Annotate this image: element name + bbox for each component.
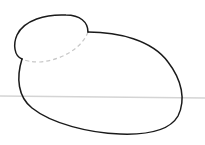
sketch-canvas (0, 0, 205, 145)
sketch-drawing (0, 0, 205, 145)
small-oval-hidden-edge (22, 32, 88, 62)
large-oval-outline (19, 32, 182, 134)
small-oval-outline (15, 15, 88, 59)
horizon-line (0, 96, 205, 98)
